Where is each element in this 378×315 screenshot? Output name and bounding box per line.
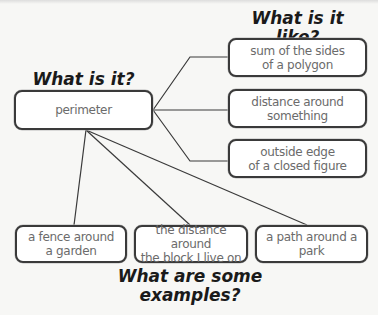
example-node-2: the distance around the block I live on	[134, 225, 248, 263]
like-node-label: distance around something	[251, 95, 343, 123]
example-node-label: a path around a park	[257, 230, 366, 258]
like-node-label: outside edge of a closed figure	[248, 145, 346, 173]
concept-map: What is it? What is it like? What are so…	[0, 0, 378, 315]
connector-line	[86, 130, 190, 225]
like-node-3: outside edge of a closed figure	[228, 139, 367, 178]
connector-line	[153, 57, 228, 110]
example-node-label: a fence around a garden	[28, 230, 114, 258]
like-node-1: sum of the sides of a polygon	[228, 38, 367, 77]
heading-examples: What are some examples?	[110, 267, 270, 305]
example-node-1: a fence around a garden	[15, 225, 127, 263]
like-node-2: distance around something	[228, 89, 367, 128]
central-node-label: perimeter	[55, 103, 112, 117]
example-node-label: the distance around the block I live on	[136, 223, 246, 265]
like-node-label: sum of the sides of a polygon	[250, 44, 344, 72]
connector-line	[74, 130, 86, 225]
central-node-perimeter: perimeter	[14, 90, 153, 130]
example-node-3: a path around a park	[255, 225, 368, 263]
connector-line	[153, 110, 228, 161]
heading-what-is-it: What is it?	[14, 70, 153, 89]
